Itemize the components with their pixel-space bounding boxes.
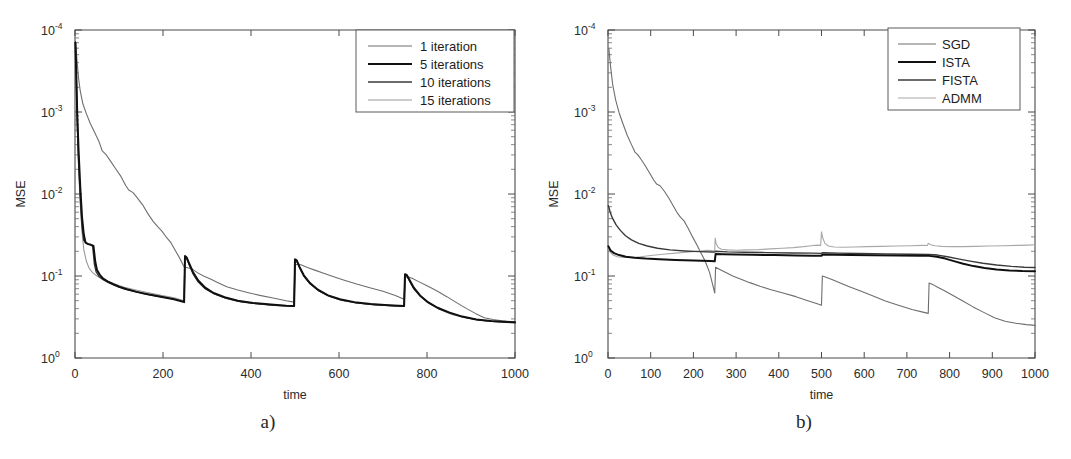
panel-b-xtick-label: 300 xyxy=(726,367,747,381)
panel-b-xtick-label: 900 xyxy=(982,367,1003,381)
panel-b-xtick-label: 400 xyxy=(768,367,789,381)
panel-a-xtick-label: 400 xyxy=(241,367,262,381)
panel-b-legend-label-0: SGD xyxy=(942,37,970,52)
panel-b-xtick-label: 700 xyxy=(896,367,917,381)
panel-b-xtick-label: 200 xyxy=(683,367,704,381)
panel-b-xlabel: time xyxy=(810,388,834,402)
panel-a-ytick-label: 100 xyxy=(41,349,60,366)
panel-a-xtick-label: 1000 xyxy=(501,367,529,381)
panel-a-legend-label-0: 1 iteration xyxy=(420,39,477,54)
panel-b-xtick-label: 100 xyxy=(640,367,661,381)
panel-b-ytick-label: 10-4 xyxy=(574,21,596,38)
panel-b-legend-label-2: FISTA xyxy=(942,73,978,88)
panel-a-ytick-label: 10-4 xyxy=(41,21,63,38)
panel-a-plot-area: 10010-110-210-310-402004006008001000time… xyxy=(14,21,529,433)
figure-container: 10010-110-210-310-402004006008001000time… xyxy=(0,0,1071,459)
panel-a-svg: 10010-110-210-310-402004006008001000time… xyxy=(0,0,536,459)
panel-b-ytick-label: 10-2 xyxy=(574,185,596,202)
panel-a-ytick-label: 10-1 xyxy=(41,267,63,284)
panel-a-xtick-label: 600 xyxy=(329,367,350,381)
panel-b-xtick-label: 600 xyxy=(854,367,875,381)
panel-b-caption: b) xyxy=(796,411,812,433)
panel-b-plot-area: 10010-110-210-310-4010020030040050060070… xyxy=(547,21,1049,433)
panel-a-caption: a) xyxy=(261,411,276,433)
panel-a-xtick-label: 0 xyxy=(72,367,79,381)
panel-a-xtick-label: 200 xyxy=(153,367,174,381)
panel-b-ytick-label: 10-1 xyxy=(574,267,596,284)
panel-b-legend-label-1: ISTA xyxy=(942,55,970,70)
panel-b-svg: 10010-110-210-310-4010020030040050060070… xyxy=(536,0,1071,459)
panel-a-xlabel: time xyxy=(283,388,307,402)
panel-a-ytick-label: 10-2 xyxy=(41,185,63,202)
panel-b: 10010-110-210-310-4010020030040050060070… xyxy=(536,0,1071,459)
panel-a-legend-label-2: 10 iterations xyxy=(420,75,491,90)
panel-b-ytick-label: 100 xyxy=(574,349,593,366)
panel-a-ylabel: MSE xyxy=(14,180,28,207)
panel-b-ytick-label: 10-3 xyxy=(574,103,596,120)
panel-b-xtick-label: 500 xyxy=(811,367,832,381)
panel-a-xtick-label: 800 xyxy=(417,367,438,381)
panel-a-ytick-label: 10-3 xyxy=(41,103,63,120)
panel-b-xtick-label: 0 xyxy=(605,367,612,381)
panel-a: 10010-110-210-310-402004006008001000time… xyxy=(0,0,536,459)
panel-b-xtick-label: 800 xyxy=(939,367,960,381)
panel-b-xtick-label: 1000 xyxy=(1021,367,1049,381)
panel-a-legend-label-3: 15 iterations xyxy=(420,93,491,108)
panel-b-legend-label-3: ADMM xyxy=(942,91,982,106)
panel-a-legend-label-1: 5 iterations xyxy=(420,57,484,72)
panel-b-ylabel: MSE xyxy=(547,180,561,207)
